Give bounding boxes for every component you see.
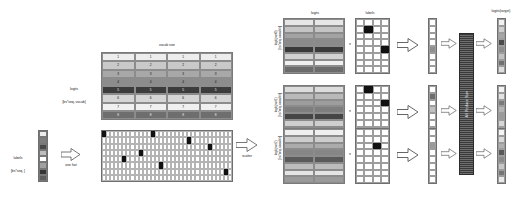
logits-cell: 6 <box>200 94 233 102</box>
partition-result-cell <box>429 163 436 170</box>
partition-labels-cell <box>356 33 364 40</box>
partition-logits-cell <box>314 26 344 33</box>
logits-cell: 6 <box>135 94 168 102</box>
partition-logits-cell <box>314 176 344 183</box>
partition-labels-cell <box>356 156 364 163</box>
partition-logits-cell <box>284 120 314 127</box>
partition-labels-cell <box>381 86 389 93</box>
target-logits-cell <box>498 136 505 143</box>
scatter-label: scatter <box>233 154 261 158</box>
partition-result-cell <box>429 33 436 40</box>
logits-cell: 5 <box>102 86 135 94</box>
partition-labels-cell <box>356 176 364 183</box>
partition-result-cell <box>429 170 436 177</box>
partition-labels-cell <box>356 106 364 113</box>
target-logits-cell <box>498 33 505 40</box>
partition-labels-cell <box>373 149 381 156</box>
partition-labels-cell <box>364 66 372 73</box>
partition-logits-cell <box>314 113 344 120</box>
partition-labels-cell <box>381 53 389 60</box>
partition-labels-cell <box>364 143 372 150</box>
partition-row-label: logit(part0)[bs*seq, vocab/n] <box>275 11 283 65</box>
partition-logits-cell <box>284 163 314 170</box>
partition-labels-cell <box>364 93 372 100</box>
plus-operator: * <box>349 152 351 158</box>
target-logits-cell <box>498 46 505 53</box>
partition-labels-cell <box>373 129 381 136</box>
partition-labels-cell <box>364 100 372 107</box>
partition-logits-cell <box>314 120 344 127</box>
partition-labels-cell <box>373 113 381 120</box>
partition-logits-cell <box>314 100 344 107</box>
partition-logits-cell <box>314 66 344 73</box>
partition-labels-cell <box>373 143 381 150</box>
partition-logits-cell <box>284 60 314 67</box>
partition-labels-cell <box>356 149 364 156</box>
flow-arrow-icon <box>441 38 457 49</box>
logits-cell: 7 <box>167 103 200 111</box>
partition-labels-cell <box>373 93 381 100</box>
partition-logits-cell <box>284 19 314 26</box>
partition-labels-cell <box>373 170 381 177</box>
partition-logits-cell <box>314 136 344 143</box>
target-logits-cell <box>498 93 505 100</box>
partition-labels-cell <box>364 39 372 46</box>
partition-logits-cell <box>284 100 314 107</box>
partition-result-vector <box>428 18 437 74</box>
partition-labels-cell <box>356 136 364 143</box>
partition-labels-cell <box>364 19 372 26</box>
logits-cell: 5 <box>135 86 168 94</box>
partition-logits-cell <box>284 156 314 163</box>
partition-labels-cell <box>373 60 381 67</box>
labels-label-line1: labels <box>0 156 38 160</box>
partition-result-cell <box>429 60 436 67</box>
vocab-size-label: vocab size <box>140 43 194 47</box>
partition-labels-cell <box>356 26 364 33</box>
partition-labels-cell <box>364 176 372 183</box>
partition-logits-cell <box>284 149 314 156</box>
partition-labels-cell <box>373 66 381 73</box>
partition-labels-cell <box>364 86 372 93</box>
partition-labels-cell <box>381 106 389 113</box>
flow-arrow-icon <box>476 148 492 159</box>
partition-logits-cell <box>284 170 314 177</box>
target-logits-cell <box>498 39 505 46</box>
target-logits-cell <box>498 129 505 136</box>
logits-cell: 2 <box>135 61 168 69</box>
logits-matrix: 11112222333344445555666677778888 <box>101 52 233 120</box>
partition-labels-cell <box>373 100 381 107</box>
target-logits-cell <box>498 170 505 177</box>
partition-logits-matrix <box>283 18 345 74</box>
partition-labels-cell <box>364 170 372 177</box>
partition-logits-cell <box>284 33 314 40</box>
partition-labels-cell <box>381 170 389 177</box>
labels-label: labels [bs*seq, ] <box>0 148 38 177</box>
target-logits-cell <box>498 66 505 73</box>
partition-labels-cell <box>364 156 372 163</box>
logits-cell: 6 <box>102 94 135 102</box>
partition-result-cell <box>429 26 436 33</box>
one-hot-cell <box>228 175 232 181</box>
logits-cell: 4 <box>102 78 135 86</box>
partition-logits-cell <box>284 143 314 150</box>
partition-labels-cell <box>373 106 381 113</box>
partition-labels-cell <box>356 143 364 150</box>
partition-logits-cell <box>284 136 314 143</box>
partition-result-cell <box>429 93 436 100</box>
partition-labels-cell <box>381 66 389 73</box>
partition-logits-cell <box>284 53 314 60</box>
target-logits-cell <box>498 106 505 113</box>
partition-logits-cell <box>314 143 344 150</box>
partition-labels-cell <box>381 33 389 40</box>
partition-result-cell <box>429 176 436 183</box>
partition-labels-cell <box>373 26 381 33</box>
partition-result-cell <box>429 39 436 46</box>
partition-labels-cell <box>381 163 389 170</box>
partition-labels-cell <box>364 106 372 113</box>
target-logits-vector <box>497 128 506 184</box>
partition-labels-cell <box>373 136 381 143</box>
target-logits-cell <box>498 19 505 26</box>
logits-cell: 2 <box>167 61 200 69</box>
partition-logits-matrix <box>283 128 345 184</box>
labels-cell <box>39 175 47 181</box>
